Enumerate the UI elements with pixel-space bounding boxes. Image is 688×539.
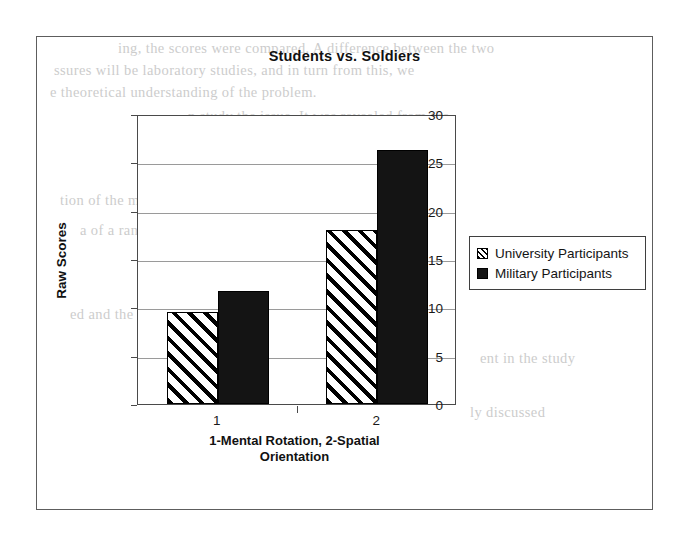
y-axis-tick-mark (131, 260, 137, 261)
x-axis-title: 1-Mental Rotation, 2-Spatial Orientation (97, 433, 492, 465)
x-axis-category-label-1: 1 (213, 413, 221, 428)
y-axis-tick-label: 10 (403, 301, 443, 316)
bar-university-participants-cat-1[interactable] (167, 312, 218, 404)
legend-item-university-participants[interactable]: University Participants (477, 243, 637, 263)
y-axis-tick-label: 15 (403, 253, 443, 268)
y-axis-tick-mark (131, 212, 137, 213)
chart-title: Students vs. Soldiers (37, 48, 652, 64)
bar-university-participants-cat-2[interactable] (326, 230, 377, 404)
y-axis-tick-mark (131, 163, 137, 164)
chart-legend: University ParticipantsMilitary Particip… (469, 236, 646, 290)
plot-wrap: 051015202530 (137, 115, 456, 405)
legend-label: Military Participants (495, 266, 612, 281)
legend-swatch-icon (477, 248, 488, 259)
x-axis-tick-mark (297, 406, 298, 413)
y-axis-tick-label: 25 (403, 156, 443, 171)
legend-swatch-icon (477, 268, 488, 279)
y-axis-title: Raw Scores (51, 115, 71, 405)
y-axis-tick-mark (131, 308, 137, 309)
x-axis-category-labels: 12 (137, 406, 456, 436)
y-axis-title-label: Raw Scores (54, 222, 69, 299)
y-axis-tick-label: 5 (403, 349, 443, 364)
y-axis-tick-label: 20 (403, 204, 443, 219)
legend-item-military-participants[interactable]: Military Participants (477, 263, 637, 283)
y-axis-tick-mark (131, 357, 137, 358)
bar-military-participants-cat-2[interactable] (377, 150, 428, 404)
y-axis-tick-mark (131, 115, 137, 116)
x-axis-title-line-2: Orientation (97, 449, 492, 465)
x-axis-category-label-2: 2 (372, 413, 380, 428)
bar-military-participants-cat-1[interactable] (218, 291, 269, 404)
y-axis-tick-label: 30 (403, 108, 443, 123)
chart-figure-frame: Students vs. Soldiers Raw Scores 0510152… (36, 36, 653, 510)
legend-label: University Participants (495, 246, 629, 261)
x-axis-title-line-1: 1-Mental Rotation, 2-Spatial (97, 433, 492, 449)
